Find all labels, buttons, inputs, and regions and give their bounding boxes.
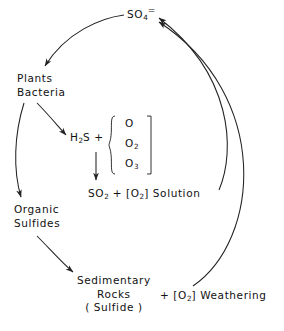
node-plants-bacteria: Plants Bacteria [17,72,65,99]
so2-formula: SO [88,187,104,199]
so2-state-label: Solution [153,187,201,199]
sulfide-parenthetical-label: ( Sulfide ) [77,301,151,315]
edge-organic-sulfides-to-sedimentary-rocks [37,236,73,272]
edge-plants-to-h2s [37,103,66,135]
sulfate-formula: SO [127,8,143,20]
node-sulfate: SO4= [127,4,155,24]
edge-plants-to-organic-sulfides [16,103,24,197]
left-curly-brace-icon [108,115,116,175]
weathering-oxygen: O [178,289,187,301]
node-weathering: + [O2] Weathering [160,289,267,306]
oxidant-item: O3 [125,155,138,175]
weathering-plus-sign: + [160,289,169,301]
so2-bracket-close: ] [144,187,149,199]
node-oxidant-group: O O2 O3 [108,115,154,175]
h2s-h: H [70,131,79,143]
oxidant-item: O [125,115,134,135]
node-organic-sulfides: Organic Sulfides [14,203,60,230]
h2s-s: S [83,131,90,143]
right-square-bracket-icon [146,115,154,175]
sulfur-cycle-diagram: SO4= Plants Bacteria H2S + O O2 O3 SO2 +… [0,0,284,331]
sulfides-label: Sulfides [14,217,60,231]
plants-label: Plants [17,72,65,86]
weathering-label: Weathering [200,289,266,301]
sulfate-charge: = [148,5,156,15]
organic-label: Organic [14,203,60,217]
node-hydrogen-sulfide: H2S + [70,131,104,148]
oxidant-item: O2 [125,135,138,155]
bacteria-label: Bacteria [17,86,65,100]
so2-oxygen: O [131,187,140,199]
edge-sulfate-to-plants [45,15,124,66]
weathering-bracket-close: ] [192,289,197,301]
so2-subscript: 2 [104,192,109,201]
so2-plus-sign: + [113,187,122,199]
node-sulfur-dioxide-solution: SO2 + [O2] Solution [88,187,200,204]
node-sedimentary-rocks: Sedimentary Rocks ( Sulfide ) [77,274,151,315]
rocks-label: Rocks [77,288,151,302]
edge-so2-solution-to-sulfate [159,18,227,190]
sedimentary-label: Sedimentary [77,274,151,288]
h2s-plus-sign: + [94,131,103,143]
